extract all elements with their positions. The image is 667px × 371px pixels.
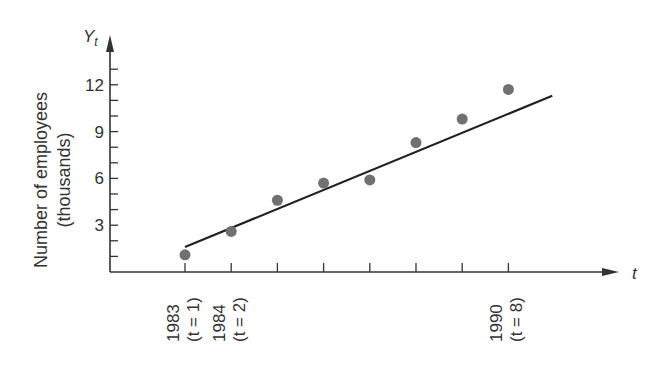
y-tick-label: 9 bbox=[95, 123, 104, 142]
x-tick-label: 1983(t = 1) bbox=[164, 297, 203, 342]
scatter-chart: 36912 Yt t Number of employees (thousand… bbox=[0, 0, 667, 371]
y-tick-label: 12 bbox=[85, 76, 104, 95]
y-axis-arrow-icon bbox=[106, 35, 114, 52]
svg-text:1983: 1983 bbox=[164, 304, 183, 342]
x-axis-ticks bbox=[185, 263, 508, 272]
y-axis-label: Number of employees (thousands) bbox=[31, 92, 74, 268]
svg-text:Number of employees: Number of employees bbox=[31, 92, 51, 268]
y-tick-label: 3 bbox=[95, 216, 104, 235]
data-points bbox=[180, 84, 514, 260]
y-axis-symbol: Yt bbox=[83, 27, 98, 49]
svg-text:1990: 1990 bbox=[487, 304, 506, 342]
svg-text:(t = 8): (t = 8) bbox=[507, 297, 526, 342]
svg-text:(t = 1): (t = 1) bbox=[184, 297, 203, 342]
data-point bbox=[411, 137, 422, 148]
svg-text:(t = 2): (t = 2) bbox=[230, 297, 249, 342]
y-tick-label: 6 bbox=[95, 169, 104, 188]
x-axis-arrow-icon bbox=[602, 268, 619, 276]
data-point bbox=[226, 226, 237, 237]
svg-text:(thousands): (thousands) bbox=[54, 132, 74, 227]
x-tick-label: 1990(t = 8) bbox=[487, 297, 526, 342]
x-tick-label: 1984(t = 2) bbox=[210, 297, 249, 342]
axes bbox=[106, 35, 619, 276]
x-axis-label: t bbox=[632, 264, 638, 283]
data-point bbox=[457, 114, 468, 125]
data-point bbox=[503, 84, 514, 95]
data-point bbox=[318, 178, 329, 189]
data-point bbox=[180, 249, 191, 260]
y-axis-ticks: 36912 bbox=[85, 69, 118, 256]
svg-text:1984: 1984 bbox=[210, 304, 229, 342]
x-tick-labels: 1983(t = 1)1984(t = 2)1990(t = 8) bbox=[164, 297, 526, 342]
data-point bbox=[272, 195, 283, 206]
trend-line bbox=[185, 96, 552, 247]
data-point bbox=[364, 174, 375, 185]
